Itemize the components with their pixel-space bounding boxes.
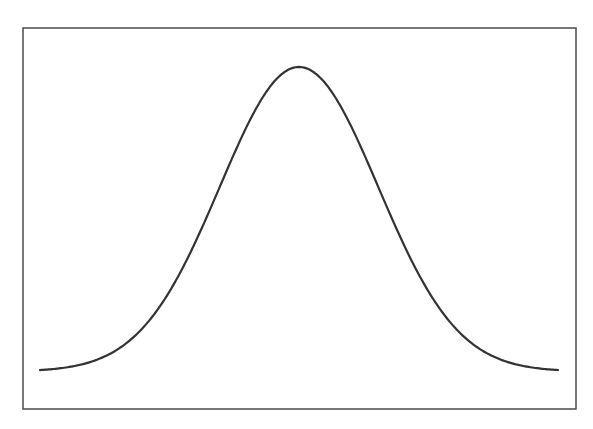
chart (0, 0, 593, 429)
plot-frame (23, 28, 576, 409)
series-line-normal-pdf (40, 67, 558, 370)
